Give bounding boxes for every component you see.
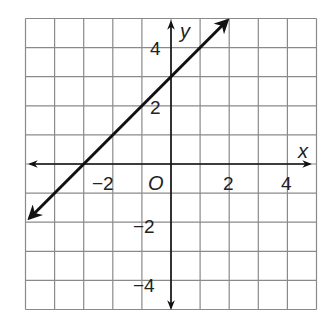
coordinate-plane: x y O −2 2 4 4 2 −2 −4 (0, 0, 331, 329)
y-tick-label-2: 2 (150, 97, 161, 118)
y-axis-label: y (178, 20, 191, 42)
x-tick-label-4: 4 (281, 173, 292, 194)
x-tick-label-2: 2 (223, 173, 234, 194)
line-y-equals-x-plus-3 (30, 21, 228, 219)
x-tick-label-neg2: −2 (92, 173, 114, 194)
y-tick-label-neg2: −2 (133, 216, 155, 237)
y-tick-label-4: 4 (150, 38, 161, 59)
origin-label: O (148, 172, 164, 194)
x-axis-label: x (297, 140, 309, 162)
y-tick-label-neg4: −4 (133, 275, 155, 296)
